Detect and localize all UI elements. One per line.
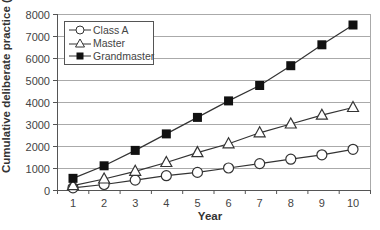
circle-marker-icon (255, 159, 265, 169)
square-marker-icon (286, 61, 295, 70)
circle-marker-icon (161, 171, 171, 181)
open-triangle-icon (69, 37, 91, 49)
legend-item-grandmaster: Grandmaster (69, 49, 154, 62)
square-marker-icon (224, 96, 233, 105)
x-tick-label: 1 (70, 197, 76, 209)
legend-item-class-a: Class A (69, 23, 129, 36)
circle-marker-icon (317, 150, 327, 160)
x-tick-label: 2 (101, 197, 107, 209)
x-tick-label: 8 (288, 197, 294, 209)
legend: Class A Master Grandmaster (64, 21, 154, 65)
plot-area: 0100020003000400050006000700080001234567… (0, 0, 380, 230)
legend-label: Grandmaster (93, 50, 154, 62)
y-axis-label: Cumulative deliberate practice (h) (0, 33, 16, 173)
y-tick-label: 7000 (26, 31, 50, 43)
y-tick-label: 4000 (26, 97, 50, 109)
circle-marker-icon (224, 163, 234, 173)
y-tick-label: 3000 (26, 119, 50, 131)
square-marker-icon (131, 146, 140, 155)
legend-label: Master (93, 37, 125, 49)
circle-marker-icon (130, 175, 140, 185)
x-tick-label: 4 (163, 197, 169, 209)
y-tick-label: 5000 (26, 75, 50, 87)
y-tick-label: 1000 (26, 163, 50, 175)
square-marker-icon (193, 113, 202, 122)
square-marker-icon (349, 21, 358, 30)
square-marker-icon (162, 129, 171, 138)
y-tick-label: 2000 (26, 141, 50, 153)
x-tick-label: 10 (347, 197, 359, 209)
open-circle-icon (69, 24, 91, 36)
circle-marker-icon (192, 167, 202, 177)
y-tick-label: 6000 (26, 53, 50, 65)
legend-item-master: Master (69, 36, 125, 49)
square-marker-icon (69, 174, 78, 183)
filled-square-icon (69, 50, 91, 62)
x-tick-label: 7 (257, 197, 263, 209)
circle-marker-icon (286, 154, 296, 164)
square-marker-icon (255, 81, 264, 90)
x-tick-label: 3 (132, 197, 138, 209)
square-marker-icon (100, 161, 109, 170)
y-tick-label: 0 (44, 185, 50, 197)
y-tick-label: 8000 (26, 9, 50, 21)
circle-marker-icon (348, 144, 358, 154)
x-tick-label: 9 (319, 197, 325, 209)
legend-label: Class A (93, 24, 129, 36)
line-chart: 0100020003000400050006000700080001234567… (0, 0, 380, 230)
x-axis-label: Year (0, 210, 380, 222)
x-tick-label: 6 (225, 197, 231, 209)
square-marker-icon (317, 40, 326, 49)
x-tick-label: 5 (194, 197, 200, 209)
